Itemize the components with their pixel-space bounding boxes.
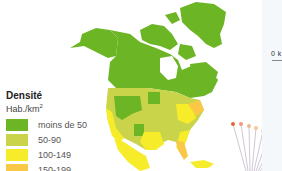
alaska xyxy=(70,28,118,58)
legend: Densité Hab./km2 moins de 50 50-90 100-1… xyxy=(6,90,87,171)
legend-item: 100-149 xyxy=(6,148,87,162)
scale-label: 0 k xyxy=(271,50,282,57)
legend-unit-sup: 2 xyxy=(40,103,43,109)
legend-swatch xyxy=(6,119,28,131)
legend-swatch xyxy=(6,149,28,161)
legend-unit-main: Hab./km xyxy=(6,104,40,114)
legend-swatch xyxy=(6,134,28,146)
scale-bar xyxy=(272,60,282,62)
adjacent-panel xyxy=(262,0,282,171)
legend-item: 50-90 xyxy=(6,133,87,147)
legend-item: moins de 50 xyxy=(6,118,87,132)
legend-swatch xyxy=(6,164,28,171)
legend-item: 150-199 xyxy=(6,163,87,171)
legend-title: Densité xyxy=(6,90,87,101)
legend-label: 150-199 xyxy=(38,165,71,171)
legend-label: 50-90 xyxy=(38,135,61,145)
legend-label: 100-149 xyxy=(38,150,71,160)
legend-unit: Hab./km2 xyxy=(6,101,87,114)
legend-label: moins de 50 xyxy=(38,120,87,130)
greenland xyxy=(180,2,226,48)
